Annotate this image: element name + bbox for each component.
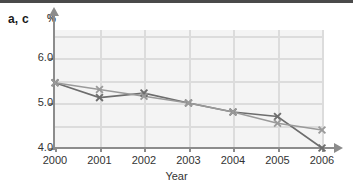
y-axis-tick-label: 4.0: [38, 141, 53, 153]
gridline-vertical: [233, 30, 235, 148]
x-axis-tick-label: 2001: [78, 154, 122, 166]
gridline-vertical: [278, 30, 280, 148]
x-axis-title: Year: [0, 170, 353, 182]
x-axis-tick: [278, 147, 280, 152]
gridline-horizontal: [55, 36, 322, 38]
y-axis-line: [53, 14, 55, 148]
x-axis-tick: [55, 147, 57, 152]
chart-figure: a, c % 6.05.04.0200020012002200320042005…: [0, 0, 353, 190]
gridline-horizontal: [55, 81, 322, 83]
x-axis-tick-label: 2005: [256, 154, 300, 166]
x-axis-tick: [100, 147, 102, 152]
y-axis-arrow-icon: [49, 7, 59, 16]
gridline-horizontal: [55, 126, 322, 128]
gridline-vertical: [144, 30, 146, 148]
x-axis-tick: [144, 147, 146, 152]
x-axis-tick-label: 2004: [211, 154, 255, 166]
x-axis-tick: [189, 147, 191, 152]
plot-area: [55, 30, 322, 148]
x-axis-tick-label: 2003: [167, 154, 211, 166]
x-axis-tick-label: 2006: [300, 154, 344, 166]
y-axis-tick-label: 5.0: [38, 96, 53, 108]
gridline-horizontal: [55, 103, 322, 105]
x-axis-tick: [233, 147, 235, 152]
x-axis-tick-label: 2002: [122, 154, 166, 166]
panel-label: a, c: [8, 12, 29, 26]
gridline-vertical: [100, 30, 102, 148]
gridline-vertical: [322, 30, 324, 148]
top-divider-rule: [0, 0, 353, 3]
x-axis-arrow-icon: [334, 143, 343, 153]
gridline-horizontal: [55, 58, 322, 60]
y-axis-tick-label: 6.0: [38, 51, 53, 63]
x-axis-tick-label: 2000: [33, 154, 77, 166]
gridline-vertical: [189, 30, 191, 148]
x-axis-tick: [322, 147, 324, 152]
x-axis-line: [55, 147, 337, 149]
